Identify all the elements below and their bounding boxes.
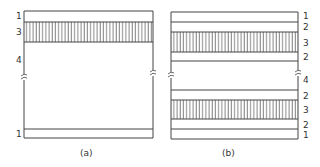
break-mark-icon	[21, 74, 27, 79]
panel-b: 1 2 3 2 4 2 3 2 1 (b)	[168, 11, 309, 158]
caption-b: (b)	[222, 148, 235, 158]
layer-label: 4	[16, 55, 22, 65]
panel-a: 1 3 4 1 (a)	[16, 11, 156, 158]
hatched-layer-3	[24, 22, 153, 42]
layer-label: 2	[303, 52, 309, 62]
break-mark-icon	[295, 70, 301, 75]
layer-label: 3	[303, 105, 309, 115]
layer-structure-diagram: 1 3 4 1 (a) 1 2 3 2 4 2 3 2 1 (b)	[0, 0, 320, 167]
break-mark-icon	[168, 72, 174, 77]
layer-label: 1	[16, 11, 22, 21]
break-mark-icon	[150, 70, 156, 75]
hatched-layer-3	[171, 32, 298, 52]
layer-label: 1	[303, 11, 309, 21]
layer-label: 1	[16, 129, 22, 139]
layer-label: 2	[303, 120, 309, 130]
layer-label: 2	[303, 22, 309, 32]
hatched-layer-3	[171, 100, 298, 119]
layer-label: 4	[303, 75, 309, 85]
caption-a: (a)	[80, 148, 93, 158]
layer-label: 2	[303, 91, 309, 101]
layer-label: 3	[16, 27, 22, 37]
layer-label: 3	[303, 38, 309, 48]
layer-label: 1	[303, 130, 309, 140]
